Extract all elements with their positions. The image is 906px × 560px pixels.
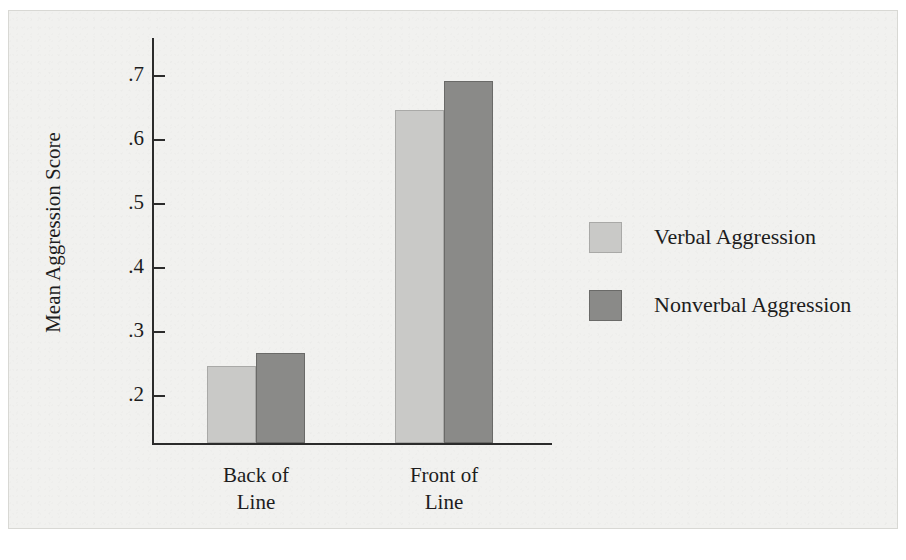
- y-tick-mark-5: [154, 395, 165, 397]
- y-tick-mark-0: [154, 75, 165, 77]
- bar-back-of-line-nonverbal[interactable]: [256, 353, 305, 443]
- y-tick-label-wrap-3: .4: [98, 256, 144, 278]
- legend: Verbal Aggression Nonverbal Aggression: [589, 214, 851, 350]
- y-tick-label-2: .5: [104, 192, 144, 213]
- x-axis-group-label-front-of-line: Front of Line: [374, 462, 514, 516]
- y-tick-label-wrap-2: .5: [98, 192, 144, 214]
- bar-chart: Mean Aggression Score .7 .6 .5 .4 .3 .2: [0, 0, 906, 560]
- legend-item-verbal-aggression[interactable]: Verbal Aggression: [589, 214, 851, 260]
- y-tick-label-wrap-5: .2: [98, 384, 144, 406]
- y-axis-line: [152, 38, 154, 445]
- y-tick-label-0: .7: [104, 64, 144, 85]
- y-tick-label-1: .6: [104, 128, 144, 149]
- y-tick-mark-4: [154, 331, 165, 333]
- legend-swatch-nonverbal-aggression: [589, 290, 622, 321]
- bar-back-of-line-verbal[interactable]: [207, 366, 256, 443]
- x-axis-group-label-back-of-line: Back of Line: [186, 462, 326, 516]
- y-tick-label-wrap-0: .7: [98, 64, 144, 86]
- y-tick-label-3: .4: [104, 256, 144, 277]
- y-tick-label-4: .3: [104, 320, 144, 341]
- legend-item-nonverbal-aggression[interactable]: Nonverbal Aggression: [589, 282, 851, 328]
- y-tick-label-5: .2: [104, 384, 144, 405]
- figure-page: Mean Aggression Score .7 .6 .5 .4 .3 .2: [0, 0, 906, 560]
- bar-front-of-line-verbal[interactable]: [395, 110, 444, 443]
- legend-label-nonverbal-aggression: Nonverbal Aggression: [654, 292, 851, 318]
- y-tick-label-wrap-1: .6: [98, 128, 144, 150]
- x-axis-line: [152, 443, 552, 445]
- y-tick-mark-1: [154, 139, 165, 141]
- y-tick-mark-3: [154, 267, 165, 269]
- y-axis-title: Mean Aggression Score: [41, 118, 66, 348]
- y-tick-mark-2: [154, 203, 165, 205]
- legend-label-verbal-aggression: Verbal Aggression: [654, 224, 816, 250]
- bar-front-of-line-nonverbal[interactable]: [444, 81, 493, 443]
- y-tick-label-wrap-4: .3: [98, 320, 144, 342]
- legend-swatch-verbal-aggression: [589, 222, 622, 253]
